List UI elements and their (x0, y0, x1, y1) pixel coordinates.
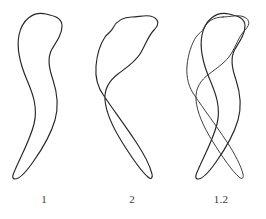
contour-2-path (96, 16, 158, 179)
shape-overlay-canvas (176, 0, 266, 192)
panel-2-label: 2 (88, 192, 176, 206)
contour-1-path (13, 13, 62, 179)
shape-1-canvas (0, 0, 88, 192)
panel-1-label: 1 (0, 192, 88, 206)
panel-3-label: 1.2 (176, 192, 266, 206)
figure-root: 1 2 1.2 (0, 0, 266, 219)
shape-2-canvas (88, 0, 176, 192)
panel-shape-1: 1 (0, 0, 88, 219)
panel-shape-overlay: 1.2 (176, 0, 266, 219)
panel-shape-2: 2 (88, 0, 176, 219)
